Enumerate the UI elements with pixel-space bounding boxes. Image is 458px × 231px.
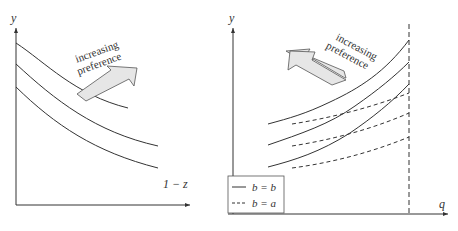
legend-solid-label: b = b	[252, 181, 276, 193]
legend-dashed-label: b = a	[252, 197, 276, 209]
solid-curve-3	[268, 84, 409, 167]
right-y-axis-label: y	[228, 11, 235, 25]
legend: b = b b = a	[228, 176, 284, 213]
dashed-curve-3	[292, 137, 409, 168]
right-x-axis-label: q	[439, 197, 445, 211]
dashed-curve-1	[292, 93, 409, 124]
indifference-curve-2	[16, 64, 158, 146]
left-panel: y 1 − z increasing preference	[10, 11, 190, 205]
left-x-axis-label: 1 − z	[163, 177, 188, 191]
left-y-axis-label: y	[10, 11, 17, 25]
right-panel: y q increasing preference b = b b = a	[228, 11, 448, 214]
